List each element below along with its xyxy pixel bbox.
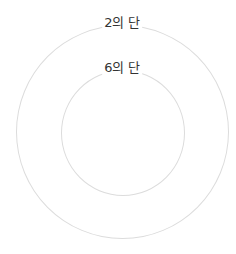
inner-ring [61,70,185,196]
concentric-diagram: 2의 단 6의 단 [0,0,236,254]
inner-ring-label: 6의 단 [102,60,142,75]
outer-ring-label: 2의 단 [102,15,142,30]
